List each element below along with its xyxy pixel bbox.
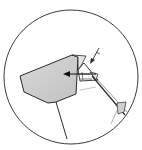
figure-stage [0,0,142,150]
detail-diagram [0,0,142,150]
